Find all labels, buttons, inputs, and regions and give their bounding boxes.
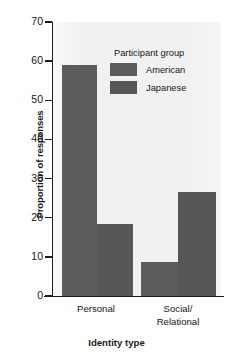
x-axis-title: Identity type (0, 337, 233, 348)
bar-japanese-personal (97, 224, 133, 296)
y-tick-label: 0 (3, 289, 43, 301)
y-tick-mark (45, 21, 52, 22)
legend-swatch-japanese (110, 81, 137, 94)
y-tick-mark (45, 60, 52, 61)
x-tick-label-personal-line1: Personal (51, 303, 141, 316)
y-tick-mark (45, 100, 52, 101)
legend-label-american: American (146, 65, 185, 75)
y-tick-mark (45, 256, 52, 257)
y-tick-mark (45, 139, 52, 140)
x-tick-label-social-relational: Social/ Relational (133, 303, 223, 328)
legend-title: Participant group (110, 48, 226, 58)
x-tick-label-social-relational-line1: Social/ (133, 303, 223, 316)
x-axis-line (44, 296, 224, 297)
x-tick-label-personal: Personal (51, 303, 141, 316)
bar-japanese-social-relational (178, 192, 216, 296)
y-tick-label: 50 (3, 93, 43, 105)
y-tick-mark (45, 295, 52, 296)
y-tick-mark (45, 178, 52, 179)
legend-item-american: American (110, 63, 226, 76)
y-tick-label: 60 (3, 54, 43, 66)
y-axis-line (52, 22, 53, 297)
y-tick-mark (45, 217, 52, 218)
y-tick-label: 30 (3, 172, 43, 184)
y-tick-label: 20 (3, 211, 43, 223)
y-tick-label: 40 (3, 132, 43, 144)
legend-item-japanese: Japanese (110, 81, 226, 94)
bar-american-social-relational (141, 262, 178, 296)
bar-chart-figure: Proportion of responses 010203040506070 … (0, 0, 233, 354)
bar-american-personal (62, 65, 97, 296)
legend-label-japanese: Japanese (146, 83, 186, 93)
y-tick-label: 10 (3, 250, 43, 262)
legend: Participant group American Japanese (110, 48, 226, 99)
legend-swatch-american (110, 63, 137, 76)
y-tick-label: 70 (3, 15, 43, 27)
x-tick-label-social-relational-line2: Relational (133, 316, 223, 329)
